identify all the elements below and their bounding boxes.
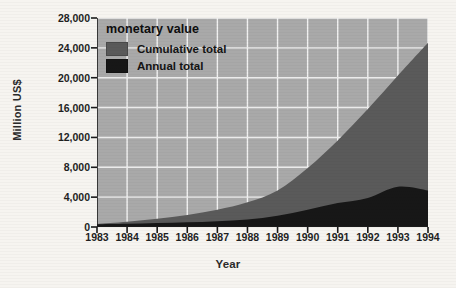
legend-item-annual-total: Annual total [106, 59, 256, 73]
x-tick-label: 1994 [406, 231, 450, 243]
chart-legend: monetary value Cumulative total Annual t… [106, 22, 256, 76]
y-tick-label: 16,000 [22, 102, 90, 114]
chart-container: Million US$ 04,0008,00012,00016,00020,00… [0, 0, 456, 288]
y-tick-label: 28,000 [22, 12, 90, 24]
y-tick-label: 12,000 [22, 131, 90, 143]
x-axis-title: Year [0, 258, 456, 270]
y-tick-label: 24,000 [22, 42, 90, 54]
y-tick-label: 20,000 [22, 72, 90, 84]
legend-swatch-cumulative-total [106, 42, 128, 56]
y-tick-label: 8,000 [22, 161, 90, 173]
legend-label-annual-total: Annual total [137, 60, 203, 72]
y-tick-label: 4,000 [22, 191, 90, 203]
legend-title: monetary value [106, 22, 256, 36]
legend-swatch-annual-total [106, 59, 128, 73]
legend-label-cumulative-total: Cumulative total [137, 43, 226, 55]
legend-item-cumulative-total: Cumulative total [106, 42, 256, 56]
